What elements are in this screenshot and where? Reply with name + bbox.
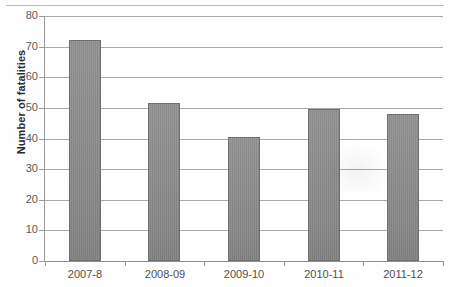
x-axis-tick-label: 2010-11	[284, 268, 364, 280]
x-axis-tick	[125, 261, 126, 266]
x-axis-tick	[363, 261, 364, 266]
x-axis-tick-label: 2008-09	[125, 268, 205, 280]
y-axis-tick-label: 10	[2, 224, 38, 235]
y-axis-tick-label: 20	[2, 194, 38, 205]
bar[interactable]	[308, 109, 340, 261]
bar[interactable]	[387, 114, 419, 261]
page-top-rule	[6, 5, 444, 6]
x-axis-tick-label: 2007-8	[45, 268, 125, 280]
bar[interactable]	[228, 137, 260, 261]
x-axis-tick	[45, 261, 46, 266]
bar[interactable]	[69, 40, 101, 261]
x-axis-line	[45, 261, 443, 262]
x-axis-tick-label: 2009-10	[204, 268, 284, 280]
x-axis-tick	[443, 261, 444, 266]
bar-chart-figure: 80706050403020100 Number of fatalities 2…	[0, 0, 450, 287]
y-axis-tick-label: 80	[2, 10, 38, 21]
bars-group	[45, 16, 443, 261]
y-axis-tick-label: 0	[2, 255, 38, 266]
x-axis-tick	[284, 261, 285, 266]
y-axis-title: Number of fatalities	[15, 37, 27, 167]
bar[interactable]	[148, 103, 180, 261]
x-axis-tick-label: 2011-12	[363, 268, 443, 280]
x-axis-tick	[204, 261, 205, 266]
